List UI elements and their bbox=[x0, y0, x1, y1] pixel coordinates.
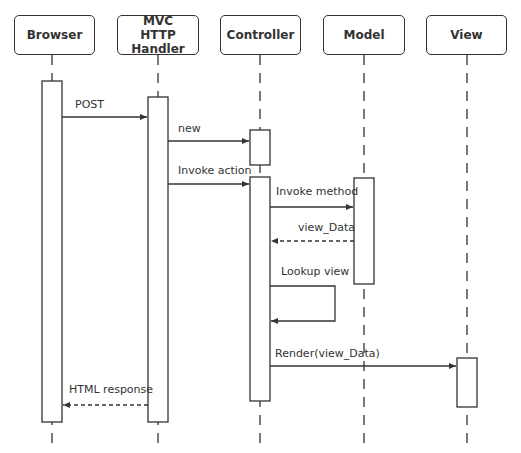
participant-label-line2: HTTP Handler bbox=[118, 28, 198, 56]
activation-handler bbox=[148, 97, 168, 422]
message-label-lookup-view: Lookup view bbox=[281, 265, 349, 278]
participant-browser: Browser bbox=[14, 15, 95, 55]
participant-controller: Controller bbox=[220, 15, 301, 55]
participant-model: Model bbox=[323, 15, 405, 55]
participant-label: View bbox=[450, 28, 482, 42]
participant-handler: MVC HTTP Handler bbox=[117, 15, 199, 55]
activation-view bbox=[457, 358, 477, 407]
participant-label: Model bbox=[343, 28, 384, 42]
message-label-invoke-method: Invoke method bbox=[276, 185, 358, 198]
message-label-invoke-action: Invoke action bbox=[178, 164, 252, 177]
message-label-post: POST bbox=[75, 98, 104, 111]
message-label-new: new bbox=[178, 122, 201, 135]
participant-label: Browser bbox=[27, 28, 83, 42]
arrow-lookup-view bbox=[270, 286, 335, 321]
message-label-view-data: view_Data bbox=[298, 221, 355, 234]
activation-controller bbox=[250, 177, 270, 401]
activation-browser bbox=[42, 81, 62, 422]
activation-controller-new bbox=[250, 130, 270, 165]
participant-label: Controller bbox=[227, 28, 295, 42]
message-label-render: Render(view_Data) bbox=[275, 347, 380, 360]
participant-label-line1: MVC bbox=[143, 14, 173, 28]
participant-view: View bbox=[426, 15, 507, 55]
message-label-html-response: HTML response bbox=[69, 383, 153, 396]
